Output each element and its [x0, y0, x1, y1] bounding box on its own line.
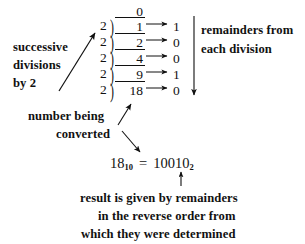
- left-label-line-2: divisions: [13, 59, 61, 72]
- bottom-caption-line-3: which they were determined: [81, 228, 236, 241]
- quotient-row-5: 18: [121, 84, 143, 98]
- equation-decimal-value: 18: [110, 155, 125, 171]
- quotient-row-4: 9: [128, 68, 143, 82]
- divisor-row-2: 2: [100, 35, 107, 49]
- quotient-row-1: 1: [128, 20, 143, 34]
- remainder-row-5: 0: [173, 84, 180, 98]
- quotient-row-3: 4: [128, 52, 143, 66]
- remainder-row-3: 0: [173, 52, 180, 66]
- divisor-row-1: 2: [100, 19, 107, 33]
- division-bracket-5: ): [110, 80, 114, 101]
- divisor-row-4: 2: [100, 67, 107, 81]
- bottom-caption-line-2: in the reverse order from: [98, 210, 236, 223]
- right-label-line-1: remainders from: [201, 24, 293, 37]
- quotient-row-2: 2: [128, 36, 143, 50]
- divisor-row-5: 2: [100, 83, 107, 97]
- divisor-row-3: 2: [100, 51, 107, 65]
- left-label-line-3: by 2: [13, 77, 36, 90]
- remainder-row-2: 0: [173, 36, 180, 50]
- remainder-row-1: 1: [173, 20, 180, 34]
- right-label-line-2: each division: [201, 43, 272, 56]
- number-label-line-1: number being: [28, 110, 104, 123]
- left-label-line-1: successive: [13, 41, 68, 54]
- equation-binary-base: 2: [189, 162, 193, 172]
- quotient-row-0: 0: [128, 5, 143, 19]
- equation-binary-value: 10010: [153, 155, 189, 171]
- number-converted-down-arrow: [122, 131, 140, 152]
- bottom-caption-line-1: result is given by remainders: [80, 192, 238, 205]
- equation-equals-sign: =: [139, 155, 147, 171]
- remainder-row-4: 1: [173, 68, 180, 82]
- equation-decimal-base: 10: [125, 162, 134, 172]
- result-equation: 1810=100102: [110, 156, 194, 172]
- number-converted-up-arrow: [118, 104, 131, 125]
- figure-canvas: 2 2 2 2 2 ) ) ) ) ) 0 1 2 4 9 18 1 0 0 1…: [0, 0, 305, 244]
- number-label-line-2: converted: [56, 128, 110, 141]
